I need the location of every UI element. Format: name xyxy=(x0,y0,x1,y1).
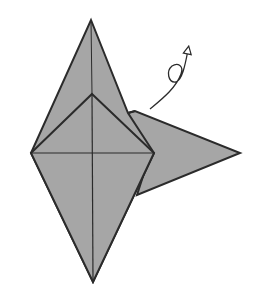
origami-diagram: origami-fold-step xyxy=(0,0,258,285)
origami-diagram-svg xyxy=(0,0,258,285)
turn-over-arrow-icon xyxy=(150,50,188,109)
